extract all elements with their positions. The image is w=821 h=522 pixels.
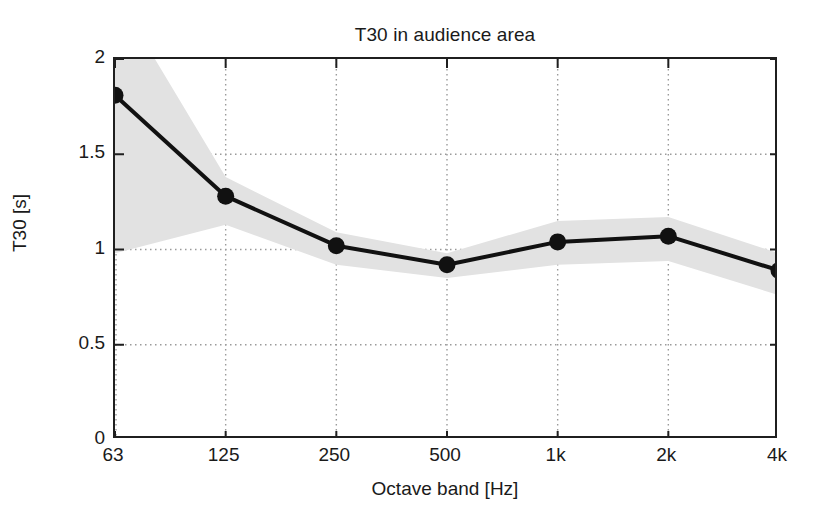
chart-figure: T30 in audience area T30 [s] 00.511.52 6… bbox=[0, 0, 821, 522]
y-axis-title: T30 [s] bbox=[9, 163, 31, 283]
x-axis-tick-labels: 631252505001k2k4k bbox=[0, 444, 821, 474]
x-axis-title: Octave band [Hz] bbox=[113, 478, 777, 500]
x-tick-label: 63 bbox=[73, 444, 153, 466]
plot-svg bbox=[115, 59, 777, 438]
data-point-marker bbox=[217, 188, 234, 205]
chart-title: T30 in audience area bbox=[113, 24, 777, 46]
data-point-marker bbox=[549, 233, 566, 250]
data-point-marker bbox=[439, 256, 456, 273]
y-tick-label: 2 bbox=[61, 46, 105, 68]
x-tick-label: 250 bbox=[294, 444, 374, 466]
data-point-marker bbox=[660, 228, 677, 245]
y-tick-label: 1.5 bbox=[61, 141, 105, 163]
x-tick-label: 500 bbox=[405, 444, 485, 466]
y-tick-label: 1 bbox=[61, 237, 105, 259]
x-tick-label: 4k bbox=[737, 444, 817, 466]
x-tick-label: 125 bbox=[184, 444, 264, 466]
data-point-marker bbox=[328, 237, 345, 254]
x-tick-label: 2k bbox=[626, 444, 706, 466]
plot-area bbox=[113, 57, 777, 438]
x-tick-label: 1k bbox=[516, 444, 596, 466]
y-tick-label: 0.5 bbox=[61, 332, 105, 354]
